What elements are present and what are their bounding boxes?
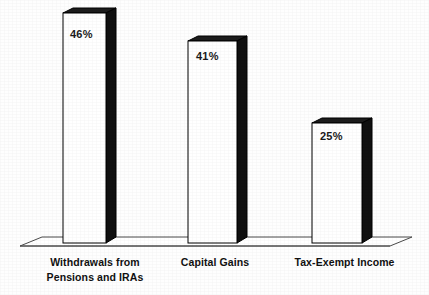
- bar-side-face: [362, 118, 372, 243]
- bar-value-label-1: 46%: [70, 29, 93, 40]
- bar-front-face: [188, 41, 237, 243]
- bar-value-label-3: 25%: [320, 131, 343, 142]
- chart-canvas: [0, 0, 429, 295]
- bar-side-face: [237, 36, 247, 243]
- bar-capital-gains[interactable]: [188, 36, 247, 243]
- bar-value-label-2: 41%: [196, 51, 219, 62]
- category-label-line1: Tax-Exempt Income: [294, 256, 394, 268]
- category-label-capital-gains: Capital Gains: [160, 255, 270, 270]
- bar-withdrawals-from-pensions-and-iras[interactable]: [63, 8, 116, 243]
- category-label-line1: Capital Gains: [181, 256, 249, 268]
- bar-side-face: [106, 8, 116, 243]
- category-label-withdrawals: Withdrawals from Pensions and IRAs: [15, 255, 175, 285]
- category-label-line2: Pensions and IRAs: [15, 270, 175, 285]
- category-label-tax-exempt-income: Tax-Exempt Income: [272, 255, 417, 270]
- category-label-line1: Withdrawals from: [50, 256, 140, 268]
- bar-chart: 46% 41% 25% Withdrawals from Pensions an…: [0, 0, 429, 295]
- bar-front-face: [63, 13, 106, 243]
